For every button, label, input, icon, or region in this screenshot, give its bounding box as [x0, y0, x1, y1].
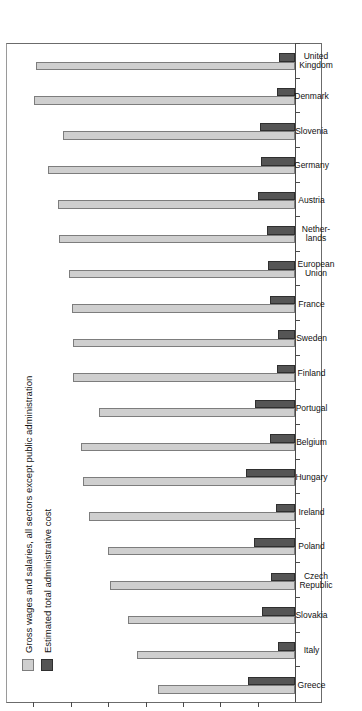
- category-label: Belgium: [280, 438, 344, 447]
- category-tick: [295, 666, 300, 667]
- category-tick: [295, 597, 300, 598]
- category-label: Greece: [280, 680, 344, 689]
- bar: [63, 131, 295, 140]
- bar: [99, 408, 295, 417]
- value-tick: [71, 702, 72, 707]
- category-label: Germany: [280, 161, 344, 170]
- category-tick: [295, 562, 300, 563]
- category-label: Slovakia: [280, 611, 344, 620]
- category-tick: [295, 251, 300, 252]
- bar: [59, 235, 295, 244]
- category-tick: [295, 78, 300, 79]
- bar: [69, 270, 295, 279]
- category-label: France: [280, 299, 344, 308]
- category-tick: [295, 493, 300, 494]
- category-tick: [295, 182, 300, 183]
- value-tick: [33, 702, 34, 707]
- bar: [83, 477, 295, 486]
- category-tick: [295, 285, 300, 286]
- category-label: Italy: [280, 646, 344, 655]
- value-tick: [220, 702, 221, 707]
- category-label: Ireland: [280, 507, 344, 516]
- category-tick: [295, 216, 300, 217]
- category-label: Nether- lands: [284, 225, 348, 243]
- category-tick: [295, 459, 300, 460]
- category-tick: [295, 424, 300, 425]
- legend-label-admin-cost: Estimated total administrative cost: [42, 509, 53, 653]
- category-label: Denmark: [280, 91, 344, 100]
- bar: [110, 581, 295, 590]
- chart-legend: Gross wages and salaries, all sectors ex…: [22, 376, 53, 671]
- category-label: Poland: [280, 542, 344, 551]
- category-label: United Kingdom: [284, 52, 348, 70]
- category-label: Finland: [280, 369, 344, 378]
- category-label: Sweden: [280, 334, 344, 343]
- category-label: Czech Republic: [284, 572, 348, 590]
- bar: [81, 443, 295, 452]
- bar: [58, 200, 295, 209]
- category-label: Slovenia: [280, 126, 344, 135]
- chart-plot-area: GreeceItalySlovakiaCzech RepublicPolandI…: [7, 44, 321, 702]
- category-label: Hungary: [280, 472, 344, 481]
- category-tick: [295, 112, 300, 113]
- bar: [89, 512, 295, 521]
- category-tick: [295, 632, 300, 633]
- category-tick: [295, 389, 300, 390]
- category-tick: [295, 355, 300, 356]
- legend-swatch-dark: [41, 659, 53, 671]
- category-tick: [295, 147, 300, 148]
- value-tick: [258, 702, 259, 707]
- category-tick: [295, 43, 300, 44]
- bar: [73, 339, 295, 348]
- chart-figure: GreeceItalySlovakiaCzech RepublicPolandI…: [0, 0, 362, 711]
- bar: [73, 374, 295, 383]
- category-tick: [295, 320, 300, 321]
- bar: [34, 96, 295, 105]
- category-tick: [295, 528, 300, 529]
- bar: [108, 547, 295, 556]
- legend-swatch-light: [22, 659, 34, 671]
- category-label: European Union: [284, 260, 348, 278]
- bar: [72, 304, 295, 313]
- bar: [158, 685, 295, 694]
- bar: [128, 616, 295, 625]
- legend-label-gross-wages: Gross wages and salaries, all sectors ex…: [23, 376, 34, 653]
- value-tick: [183, 702, 184, 707]
- bar: [36, 62, 295, 71]
- legend-item-gross-wages: Gross wages and salaries, all sectors ex…: [22, 376, 34, 671]
- value-tick: [108, 702, 109, 707]
- category-label: Portugal: [280, 403, 344, 412]
- bar: [48, 166, 295, 175]
- bar: [137, 651, 295, 660]
- legend-item-admin-cost: Estimated total administrative cost: [41, 376, 53, 671]
- category-label: Austria: [280, 195, 344, 204]
- value-tick: [146, 702, 147, 707]
